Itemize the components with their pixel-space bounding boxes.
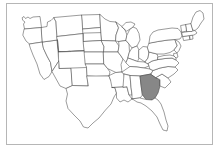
state-MT[interactable]	[54, 15, 84, 37]
state-FL[interactable]	[132, 98, 168, 131]
state-WA[interactable]	[23, 17, 42, 30]
state-MT-SD-fill[interactable]	[84, 33, 102, 42]
state-NE[interactable]	[84, 41, 105, 53]
us-locator-map-figure	[0, 0, 220, 149]
state-ID[interactable]	[42, 18, 58, 43]
state-CO-box[interactable]	[59, 51, 87, 69]
state-ME[interactable]	[191, 11, 204, 31]
state-IA[interactable]	[102, 41, 120, 53]
state-WY[interactable]	[57, 34, 85, 53]
us-states-map	[0, 0, 220, 149]
state-KS[interactable]	[85, 52, 105, 64]
state-ND[interactable]	[82, 15, 101, 30]
state-OR[interactable]	[23, 28, 43, 45]
state-AR[interactable]	[109, 72, 125, 88]
